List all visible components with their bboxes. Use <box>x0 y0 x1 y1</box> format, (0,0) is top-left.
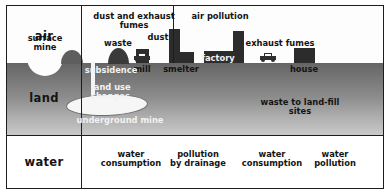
label-surface-mine: surface mine <box>28 34 63 53</box>
label-land-use-changes: land use changes <box>91 83 131 102</box>
band-label-column-divider <box>81 6 82 189</box>
band-label-land: land <box>29 92 58 105</box>
label-house: house <box>290 65 318 74</box>
diagram-frame: air land water surface mine dust and exh… <box>6 5 384 189</box>
band-label-water: water <box>25 156 64 169</box>
label-water-consumption-1: water consumption <box>101 150 161 169</box>
label-subsidence: subsidence <box>85 66 138 75</box>
label-waste-to-landfill: waste to land-fill sites <box>259 98 342 117</box>
waste-truck-icon <box>134 53 150 62</box>
label-water-pollution: water pollution <box>314 150 356 169</box>
car-icon <box>260 53 276 62</box>
label-exhaust-fumes: exhaust fumes <box>246 39 315 48</box>
label-pollution-by-drainage: pollution by drainage <box>170 150 226 169</box>
label-water-consumption-2: water consumption <box>242 150 302 169</box>
environment-impact-diagram: air land water surface mine dust and exh… <box>0 0 390 194</box>
label-air-pollution: air pollution <box>191 12 248 21</box>
label-dust: dust <box>148 33 169 42</box>
label-smelter: smelter <box>163 65 199 74</box>
smelter-stack <box>169 29 180 63</box>
label-dust-and-exhaust-fumes: dust and exhaust fumes <box>93 12 174 31</box>
land-water-divider <box>7 135 383 136</box>
smelter-base <box>180 52 194 63</box>
label-waste: waste <box>104 39 132 48</box>
house-block <box>294 48 315 63</box>
label-factory: factory <box>201 54 234 63</box>
label-underground-mine: underground mine <box>77 116 164 125</box>
